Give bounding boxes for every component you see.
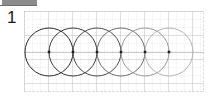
circle-center-dot[interactable] (168, 51, 171, 54)
toolbar-sliver (0, 0, 37, 6)
circle-center-dot[interactable] (72, 51, 75, 54)
screenshot-root: 1 (0, 0, 213, 96)
toolbar-sliver-edge (0, 0, 2, 5)
drawing-canvas[interactable] (24, 11, 204, 92)
circle-center-dot[interactable] (48, 51, 51, 54)
grid-layer (24, 11, 204, 92)
circle-center-dot[interactable] (96, 51, 99, 54)
step-number-label: 1 (7, 8, 21, 28)
canvas-svg (24, 11, 204, 92)
circle-center-dot[interactable] (144, 51, 147, 54)
circle-center-dot[interactable] (120, 51, 123, 54)
